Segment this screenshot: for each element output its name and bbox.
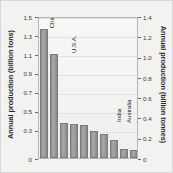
bar-india — [60, 123, 67, 158]
y-ticklabel-right: 0 — [143, 156, 157, 163]
plot-area: ChinaU.S.A.IndiaAustraliaSouth AfricaRus… — [38, 17, 138, 159]
y-tick-left — [35, 36, 38, 37]
bar-russia — [90, 131, 97, 159]
bar-u-s-a- — [50, 54, 57, 158]
bar-north-korea — [120, 149, 127, 159]
y-ticklabel-left: 1.1 — [18, 52, 32, 59]
bar-ukraine — [130, 150, 137, 158]
y-tick-left — [35, 93, 38, 94]
y-ticklabel-right: 0.2 — [143, 135, 157, 142]
bar-china — [40, 29, 47, 158]
y-tick-left — [35, 131, 38, 132]
y-tick-left — [35, 159, 38, 160]
y-ticklabel-right: 1.0 — [143, 54, 157, 61]
y-ticklabel-right: 0.6 — [143, 95, 157, 102]
y-tick-right — [138, 98, 141, 99]
y-ticklabel-left: 1.3 — [18, 33, 32, 40]
bar-germany — [100, 134, 107, 158]
bar-label: China — [46, 17, 57, 28]
y-ticklabel-right: 0.8 — [143, 75, 157, 82]
y-tick-right — [138, 139, 141, 140]
y-ticklabel-left: 0.3 — [18, 127, 32, 134]
y-ticklabel-right: 1.2 — [143, 34, 157, 41]
chart-screenshot: Annual production (billion tons) Annual … — [0, 0, 173, 173]
y-ticklabel-left: 0 — [18, 156, 32, 163]
y-ticklabel-right: 1.4 — [143, 14, 157, 21]
y-tick-left — [35, 74, 38, 75]
y-tick-left — [35, 55, 38, 56]
y-tick-right — [138, 78, 141, 79]
y-axis-title-right: Annual production (billion tonnes) — [159, 15, 168, 155]
y-tick-left — [35, 112, 38, 113]
bar-poland — [110, 140, 117, 158]
y-ticklabel-right: 0.4 — [143, 115, 157, 122]
y-ticklabel-left: 0.7 — [18, 89, 32, 96]
y-tick-right — [138, 17, 141, 18]
y-tick-right — [138, 58, 141, 59]
bar-south-africa — [80, 125, 87, 158]
bar-australia — [70, 124, 77, 158]
y-ticklabel-left: 0.5 — [18, 108, 32, 115]
y-tick-right — [138, 118, 141, 119]
y-ticklabel-left: 0.9 — [18, 70, 32, 77]
y-tick-left — [35, 17, 38, 18]
bar-label: U.S.A. — [56, 36, 92, 53]
y-tick-right — [138, 159, 141, 160]
y-ticklabel-left: 1.5 — [18, 14, 32, 21]
y-tick-right — [138, 37, 141, 38]
y-axis-title-left: Annual production (billion tons) — [6, 15, 15, 155]
